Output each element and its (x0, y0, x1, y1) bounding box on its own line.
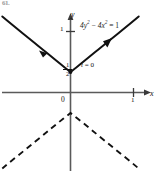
equation-label: 4y2 − 4x2 = 1 (80, 20, 119, 29)
equation-rhs: 1 (115, 21, 119, 30)
x-axis-tick-label-1: 1 (131, 97, 135, 104)
direction-arrow-right (103, 38, 112, 48)
fraction-denominator: 2 (62, 71, 73, 78)
y-axis-tick-label-1: 1 (60, 26, 64, 33)
equation-minus: − (90, 21, 98, 30)
parameter-t-label: t = 0 (81, 62, 94, 69)
figure-corner-mark: 61. (2, 0, 9, 7)
origin-label: 0 (61, 96, 65, 104)
x-axis-label: x (150, 90, 154, 98)
y-axis-label: y (71, 11, 75, 19)
fraction-numerator: 1 (62, 62, 73, 69)
figure-canvas: 61. 4y2 − 4x2 = 1 y x 1 1 0 1 2 t = 0 (0, 0, 160, 171)
parameter-value: 0 (90, 61, 94, 69)
vertex-y-value-fraction: 1 2 (62, 62, 73, 77)
